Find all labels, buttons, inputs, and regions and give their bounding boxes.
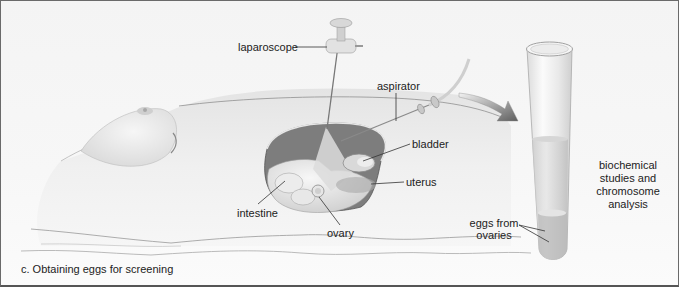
label-analysis-line3: chromosome bbox=[586, 185, 670, 198]
figure-caption: c. Obtaining eggs for screening bbox=[21, 263, 173, 275]
illustration bbox=[1, 1, 678, 285]
label-laparoscope: laparoscope bbox=[238, 41, 298, 53]
figure-frame: laparoscope aspirator bladder uterus int… bbox=[0, 0, 679, 287]
label-analysis-line2: studies and bbox=[586, 172, 670, 185]
label-analysis-line4: analysis bbox=[586, 198, 670, 211]
label-analysis: biochemical studies and chromosome analy… bbox=[586, 159, 670, 211]
label-aspirator: aspirator bbox=[377, 80, 420, 92]
collection-test-tube bbox=[527, 42, 573, 260]
label-uterus: uterus bbox=[406, 176, 437, 188]
label-eggs-from-ovaries: eggs from ovaries bbox=[464, 217, 524, 241]
label-analysis-line1: biochemical bbox=[586, 159, 670, 172]
label-eggs-line2: ovaries bbox=[464, 229, 524, 241]
abdominal-cavity bbox=[265, 123, 386, 213]
label-intestine: intestine bbox=[237, 207, 278, 219]
label-bladder: bladder bbox=[412, 138, 449, 150]
label-eggs-line1: eggs from bbox=[464, 217, 524, 229]
label-ovary: ovary bbox=[327, 227, 354, 239]
